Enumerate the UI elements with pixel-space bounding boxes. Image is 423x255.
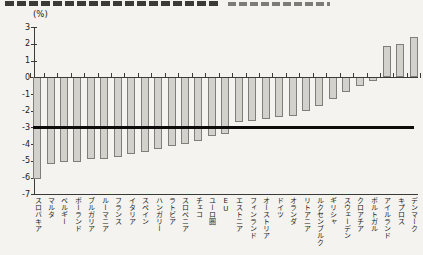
- y-tick-mark: [31, 44, 37, 45]
- bar-ルーマニア: [100, 77, 108, 159]
- bar-アイルランド: [383, 46, 391, 78]
- cropped-figure-title: [5, 1, 220, 6]
- y-tick-mark: [31, 27, 37, 28]
- y-axis-unit-label: (%): [33, 9, 48, 19]
- x-tick-mark: [138, 73, 139, 78]
- x-axis-label: ポーランド: [72, 197, 83, 255]
- x-tick-mark: [313, 73, 314, 78]
- x-tick-mark: [84, 73, 85, 78]
- x-tick-mark: [420, 73, 421, 78]
- bar-マルタ: [47, 77, 55, 164]
- bar-スロベニア: [181, 77, 189, 144]
- x-tick-mark: [151, 73, 152, 78]
- bar-ラトビア: [168, 77, 176, 146]
- bar-ギリシャ: [329, 77, 337, 99]
- y-tick-label: -3: [6, 123, 30, 132]
- x-tick-mark: [57, 73, 58, 78]
- x-axis-label: オーストリア: [260, 197, 271, 255]
- x-axis-label: ハンガリー: [153, 197, 164, 255]
- x-tick-mark: [30, 73, 31, 78]
- bar-ルクセンブルク: [315, 77, 323, 105]
- x-tick-mark: [272, 73, 273, 78]
- x-axis-label: イタリア: [126, 197, 137, 255]
- x-axis-label: キプロス: [395, 197, 406, 255]
- x-tick-mark: [232, 73, 233, 78]
- bar-チェコ: [194, 77, 202, 141]
- bar-オランダ: [289, 77, 297, 115]
- x-tick-mark: [299, 73, 300, 78]
- x-axis-label: ユーロ圏: [206, 197, 217, 255]
- x-tick-mark: [353, 73, 354, 78]
- bar-ポーランド: [73, 77, 81, 162]
- x-axis-label: ルーマニア: [99, 197, 110, 255]
- bar-オーストリア: [262, 77, 270, 119]
- bar-ベルギー: [60, 77, 68, 162]
- y-tick-label: -6: [6, 173, 30, 182]
- x-axis-bottom-line: [34, 194, 418, 195]
- bar-クロアチア: [356, 77, 364, 85]
- x-tick-mark: [259, 73, 260, 78]
- x-tick-mark: [178, 73, 179, 78]
- x-axis-label: ラトビア: [166, 197, 177, 255]
- y-tick-label: -7: [6, 190, 30, 199]
- x-axis-label: スロベニア: [179, 197, 190, 255]
- x-axis-label: ギリシャ: [327, 197, 338, 255]
- x-axis-label: オランダ: [287, 197, 298, 255]
- x-tick-mark: [98, 73, 99, 78]
- x-tick-mark: [165, 73, 166, 78]
- x-axis-label: クロアチア: [354, 197, 365, 255]
- x-axis-label: リトアニア: [301, 197, 312, 255]
- bar-スペイン: [141, 77, 149, 152]
- bar-イタリア: [127, 77, 135, 154]
- x-axis-label: マルタ: [45, 197, 56, 255]
- x-tick-mark: [246, 73, 247, 78]
- x-tick-mark: [205, 73, 206, 78]
- x-axis-label: ベルギー: [58, 197, 69, 255]
- x-tick-mark: [367, 73, 368, 78]
- x-axis-label: エストニア: [233, 197, 244, 255]
- y-tick-mark: [31, 61, 37, 62]
- x-axis-label: アイルランド: [381, 197, 392, 255]
- y-tick-mark: [31, 194, 37, 195]
- x-tick-mark: [393, 73, 394, 78]
- bar-リトアニア: [302, 77, 310, 110]
- bar-ハンガリー: [154, 77, 162, 149]
- x-axis-label: スロバキア: [32, 197, 43, 255]
- x-axis-label: スペイン: [139, 197, 150, 255]
- bar-キプロス: [396, 44, 404, 77]
- x-axis-label: EU: [220, 197, 231, 255]
- x-tick-mark: [407, 73, 408, 78]
- bar-ブルガリア: [87, 77, 95, 159]
- minus3-reference-line: [33, 126, 414, 129]
- x-tick-mark: [192, 73, 193, 78]
- bar-フランス: [114, 77, 122, 157]
- y-tick-label: 0: [6, 73, 30, 82]
- x-tick-mark: [111, 73, 112, 78]
- x-tick-mark: [340, 73, 341, 78]
- x-tick-mark: [44, 73, 45, 78]
- bar-エストニア: [235, 77, 243, 122]
- x-axis-label: ブルガリア: [85, 197, 96, 255]
- x-axis-label: デンマーク: [408, 197, 419, 255]
- x-tick-mark: [286, 73, 287, 78]
- bar-スウェーデン: [342, 77, 350, 92]
- cropped-figure-title-light: [228, 2, 330, 6]
- x-tick-mark: [380, 73, 381, 78]
- x-tick-mark: [71, 73, 72, 78]
- zero-baseline: [34, 77, 418, 78]
- x-axis-label: ポルトガル: [368, 197, 379, 255]
- y-tick-label: -5: [6, 156, 30, 165]
- bar-ドイツ: [275, 77, 283, 117]
- scanned-bar-chart-page: (%) 3210-1-2-3-4-5-6-7スロバキアマルタベルギーポーランドブ…: [0, 0, 423, 255]
- y-tick-label: 2: [6, 39, 30, 48]
- x-tick-mark: [326, 73, 327, 78]
- bar-デンマーク: [410, 37, 418, 77]
- y-tick-label: 1: [6, 56, 30, 65]
- y-tick-label: -2: [6, 106, 30, 115]
- bar-フィンランド: [248, 77, 256, 120]
- y-tick-label: 3: [6, 23, 30, 32]
- y-tick-label: -1: [6, 90, 30, 99]
- x-tick-mark: [124, 73, 125, 78]
- x-tick-mark: [219, 73, 220, 78]
- x-axis-label: ルクセンブルク: [314, 197, 325, 255]
